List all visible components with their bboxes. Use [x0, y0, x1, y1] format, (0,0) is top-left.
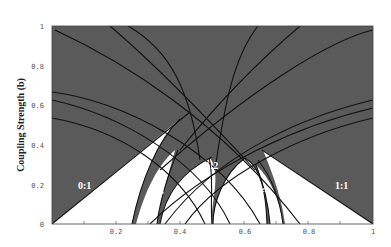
x-tick-label: 1	[371, 228, 375, 236]
plot-area	[52, 26, 373, 224]
y-tick-label: 0.2	[31, 182, 44, 190]
region-label-1-2: 1:2	[205, 160, 218, 171]
y-axis-title: Coupling Strength (b)	[15, 78, 27, 172]
region-label-1-4: 1:4	[127, 181, 139, 191]
y-tick-label: 0.8	[31, 63, 44, 71]
x-tick-label: 0.6	[239, 228, 252, 236]
region-label-0-1: 0:1	[78, 180, 91, 191]
y-tick-label: 1	[40, 23, 44, 31]
x-tick-label: 0.2	[110, 228, 123, 236]
x-tick-label: 0.4	[174, 228, 187, 236]
y-axis: 0 0.2 0.4 0.6 0.8 1 Coupling Strength (b…	[15, 23, 44, 229]
y-tick-label: 0	[40, 221, 44, 229]
region-label-3-4: 3:4	[287, 181, 299, 191]
region-label-1-3: 1:3	[155, 188, 164, 195]
y-tick-label: 0.4	[31, 142, 44, 150]
region-label-2-3: 2:3	[261, 186, 270, 193]
x-tick-label: 0.8	[303, 228, 316, 236]
arnold-tongue-chart: 0 0.2 0.4 0.6 0.8 1 Coupling Strength (b…	[0, 0, 391, 247]
region-label-1-1: 1:1	[335, 180, 348, 191]
y-tick-label: 0.6	[31, 102, 44, 110]
